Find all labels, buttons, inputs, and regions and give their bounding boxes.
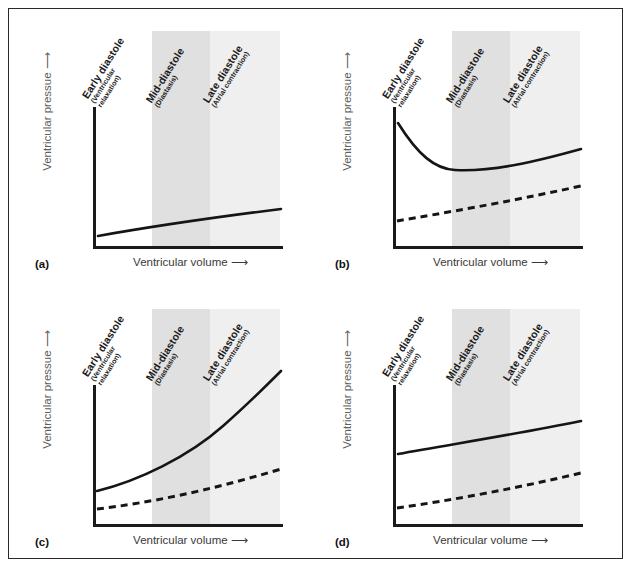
y-axis-title-c: Ventricular pressue ⟶ <box>40 315 54 465</box>
y-axis-title-text: Ventricular pressue <box>41 72 53 170</box>
x-axis-arrow: ⟶ <box>231 534 247 546</box>
panel-c: Early diastole (Ventricular relaxation) … <box>9 287 316 562</box>
panel-b: Early diastole (Ventricular relaxation) … <box>309 9 616 284</box>
y-axis-arrow: ⟶ <box>41 331 53 347</box>
curves-a <box>93 31 285 249</box>
x-axis-title-a: Ventricular volume ⟶ <box>95 255 285 269</box>
x-axis-arrow: ⟶ <box>531 534 547 546</box>
y-axis-title-d: Ventricular pressue ⟶ <box>340 315 354 465</box>
panel-tag-b: (b) <box>335 258 350 270</box>
x-axis-title-b: Ventricular volume ⟶ <box>395 255 585 269</box>
panel-a: Early diastole (Ventricular relaxation) … <box>9 9 316 284</box>
y-axis-title-b: Ventricular pressue ⟶ <box>340 37 354 187</box>
panel-d: Early diastole (Ventricular relaxation) … <box>309 287 616 562</box>
y-axis-arrow: ⟶ <box>341 53 353 69</box>
x-axis-title-d: Ventricular volume ⟶ <box>395 533 585 547</box>
panel-tag-c: (c) <box>35 536 49 548</box>
x-axis-arrow: ⟶ <box>531 256 547 268</box>
panel-tag-a: (a) <box>35 258 49 270</box>
y-axis-title-text: Ventricular pressue <box>341 350 353 448</box>
curve-pressure-solid <box>98 209 281 236</box>
x-axis-title-c: Ventricular volume ⟶ <box>95 533 285 547</box>
x-axis-title-text: Ventricular volume <box>433 256 528 268</box>
x-axis-arrow: ⟶ <box>231 256 247 268</box>
y-axis-arrow: ⟶ <box>341 331 353 347</box>
x-axis-title-text: Ventricular volume <box>133 534 228 546</box>
y-axis-arrow: ⟶ <box>41 53 53 69</box>
y-axis-title-a: Ventricular pressue ⟶ <box>40 37 54 187</box>
y-axis-title-text: Ventricular pressue <box>341 72 353 170</box>
curve-reference-dashed <box>397 473 581 508</box>
figure-frame: Early diastole (Ventricular relaxation) … <box>8 8 623 559</box>
curve-pressure-solid <box>97 371 281 491</box>
x-axis-title-text: Ventricular volume <box>433 534 528 546</box>
x-axis-title-text: Ventricular volume <box>133 256 228 268</box>
curve-reference-dashed <box>97 469 281 509</box>
curves-c <box>93 309 285 527</box>
curves-b <box>393 31 585 249</box>
panel-tag-d: (d) <box>335 536 350 548</box>
curves-d <box>393 309 585 527</box>
curve-reference-dashed <box>397 186 581 221</box>
curve-pressure-solid <box>398 123 581 170</box>
y-axis-title-text: Ventricular pressue <box>41 350 53 448</box>
curve-pressure-solid <box>398 421 581 454</box>
